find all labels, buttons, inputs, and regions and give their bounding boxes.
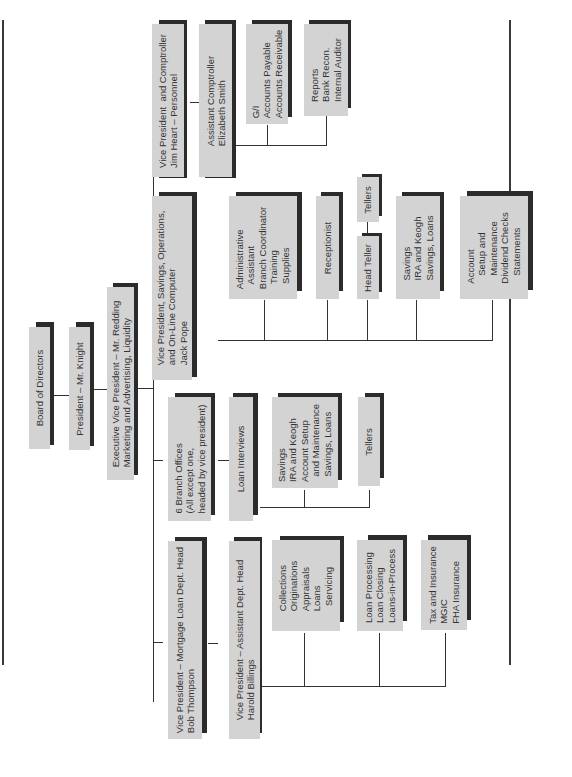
connector: [326, 115, 327, 145]
connector: [262, 686, 446, 687]
node-loan-processing[interactable]: Loan Processing Loan Closing Loans-in-Pr…: [357, 540, 403, 631]
connector: [236, 145, 327, 146]
connector: [379, 633, 380, 686]
node-vp-assistant-dept-head[interactable]: Vice President – Assistant Dept. Head Ha…: [229, 541, 260, 739]
connector: [369, 490, 370, 507]
node-label: Vice President, Savings, Operations, and…: [155, 211, 189, 366]
node-label: Loan Processing Loan Closing Loans-in-Pr…: [363, 549, 397, 623]
node-reports[interactable]: Reports Bank Recon. Internal Auditor: [304, 24, 348, 116]
connector: [153, 460, 163, 461]
node-administrative-assistant[interactable]: Administrative Assistant Branch Coordina…: [229, 196, 297, 299]
right-border-line: [509, 20, 511, 665]
node-label: Reports Bank Recon. Internal Auditor: [309, 38, 343, 102]
node-branch-tellers[interactable]: Tellers: [358, 397, 380, 486]
node-collections[interactable]: Collections Originations Appraisals Loan…: [272, 540, 340, 631]
node-label: Account Setup and Maintenance Dividend C…: [465, 212, 522, 283]
connector: [492, 300, 493, 340]
connector: [445, 633, 446, 686]
node-account-setup[interactable]: Account Setup and Maintenance Dividend C…: [460, 196, 528, 299]
node-vp-mortgage-loan[interactable]: Vice President – Mortgage Loan Dept. Hea…: [168, 541, 202, 739]
connector: [304, 633, 305, 686]
node-label: Vice President and Comptroller Jim Heart…: [157, 34, 180, 168]
node-executive-vice-president[interactable]: Executive Vice President – Mr. Redding M…: [107, 287, 134, 480]
node-label: Loan Interviews: [235, 426, 246, 493]
node-label: G/I Accounts Payable Accounts Receivable: [250, 30, 284, 119]
node-vp-comptroller[interactable]: Vice President and Comptroller Jim Heart…: [152, 24, 184, 177]
node-vp-savings-operations[interactable]: Vice President, Savings, Operations, and…: [152, 196, 192, 380]
node-head-teller[interactable]: Head Teller: [357, 236, 379, 299]
node-loan-interviews[interactable]: Loan Interviews: [229, 397, 253, 521]
node-board-of-directors[interactable]: Board of Directors: [29, 327, 50, 449]
connector: [416, 300, 417, 340]
node-receptionist[interactable]: Receptionist: [316, 196, 339, 299]
connector: [367, 300, 368, 340]
node-label: Assistant Comptroller Elizabeth Smith: [204, 55, 227, 145]
connector: [267, 125, 268, 145]
node-label: Board of Directors: [34, 350, 45, 427]
connector: [218, 340, 493, 341]
node-label: Administrative Assistant Branch Coordina…: [234, 206, 291, 288]
left-border-line: [2, 20, 4, 665]
node-label: Vice President – Assistant Dept. Head Ha…: [233, 560, 256, 720]
node-label: Savings IRA and Keogh Account Setup and …: [276, 403, 333, 481]
node-branch-offices[interactable]: 6 Branch Offices (All except one, headed…: [168, 397, 211, 521]
connector: [304, 490, 305, 507]
node-label: Savings IRA and Keogh Savings, Loans: [401, 215, 435, 280]
connector: [153, 642, 163, 643]
node-label: Collections Originations Appraisals Loan…: [277, 560, 334, 611]
node-label: Head Teller: [362, 244, 373, 292]
node-label: Tax and Insurance MGIC FHA Insurance: [427, 546, 461, 624]
node-president[interactable]: President – Mr. Knight: [69, 327, 90, 450]
node-gl-accounts[interactable]: G/I Accounts Payable Accounts Receivable: [246, 24, 288, 124]
node-label: Tellers: [362, 186, 373, 213]
node-label: Tellers: [363, 428, 374, 455]
node-label: Receptionist: [322, 221, 333, 273]
connector: [138, 388, 153, 389]
node-branch-savings[interactable]: Savings IRA and Keogh Account Setup and …: [272, 397, 338, 488]
connector: [260, 507, 370, 508]
connector: [208, 643, 218, 644]
connector: [153, 105, 154, 702]
node-label: Executive Vice President – Mr. Redding M…: [109, 300, 132, 467]
node-tax-and-insurance[interactable]: Tax and Insurance MGIC FHA Insurance: [421, 540, 467, 630]
connector: [327, 300, 328, 340]
node-savings-ira-keogh[interactable]: Savings IRA and Keogh Savings, Loans: [396, 196, 440, 299]
node-label: Vice President – Mortgage Loan Dept. Hea…: [174, 547, 197, 733]
node-tellers-operations[interactable]: Tellers: [357, 177, 379, 222]
node-label: President – Mr. Knight: [74, 342, 85, 435]
node-label: 6 Branch Offices (All except one, headed…: [172, 405, 206, 514]
connector: [264, 300, 265, 340]
node-assistant-comptroller[interactable]: Assistant Comptroller Elizabeth Smith: [199, 24, 232, 177]
